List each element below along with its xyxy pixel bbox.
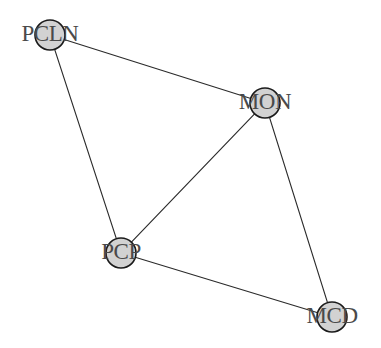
node-label-mcd: MCD bbox=[306, 303, 357, 328]
graph-node-mon[interactable]: MON bbox=[239, 88, 292, 118]
graph-edge-mon-mcd bbox=[269, 116, 328, 303]
graph-edge-pcln-mon bbox=[63, 39, 251, 99]
graph-node-pcln[interactable]: PCLN bbox=[21, 20, 79, 50]
graph-node-pcp[interactable]: PCP bbox=[101, 238, 141, 268]
graph-node-mcd[interactable]: MCD bbox=[306, 302, 357, 332]
nodes-layer: PCLNMONPCPMCD bbox=[21, 20, 357, 332]
edges-layer bbox=[54, 39, 327, 313]
network-graph-canvas: PCLNMONPCPMCD bbox=[0, 0, 381, 348]
graph-edge-pcln-pcp bbox=[54, 48, 116, 239]
graph-edge-pcp-mcd bbox=[134, 257, 318, 313]
node-label-pcp: PCP bbox=[101, 239, 141, 264]
graph-edge-mon-pcp bbox=[131, 113, 256, 243]
network-graph-svg: PCLNMONPCPMCD bbox=[0, 0, 381, 348]
node-label-mon: MON bbox=[239, 89, 292, 114]
node-label-pcln: PCLN bbox=[21, 21, 79, 46]
